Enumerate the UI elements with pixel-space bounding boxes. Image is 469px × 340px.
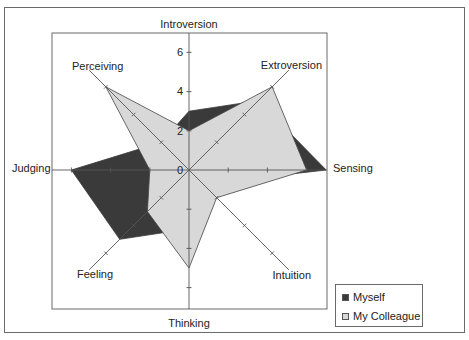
- legend-label-colleague: My Colleague: [353, 310, 420, 322]
- tick-label-6: 6: [177, 46, 183, 58]
- axis-label-introversion: Introversion: [160, 18, 217, 30]
- axis-label-feeling: Feeling: [77, 268, 113, 280]
- legend: Myself My Colleague: [335, 284, 423, 327]
- legend-label-myself: Myself: [353, 291, 385, 303]
- axis-label-extroversion: Extroversion: [261, 59, 322, 71]
- axis-label-thinking: Thinking: [168, 317, 210, 329]
- tick-label-0: 0: [177, 164, 183, 176]
- axis-label-sensing: Sensing: [333, 162, 373, 174]
- legend-swatch-dark-icon: [342, 294, 349, 301]
- axis-label-judging: Judging: [12, 162, 51, 174]
- axis-label-perceiving: Perceiving: [72, 60, 123, 72]
- legend-swatch-light-icon: [342, 313, 349, 320]
- tick-label-2: 2: [177, 125, 183, 137]
- axis-label-intuition: Intuition: [272, 269, 311, 281]
- legend-item-colleague: My Colleague: [342, 310, 420, 322]
- tick-label-4: 4: [177, 85, 183, 97]
- legend-item-myself: Myself: [342, 291, 385, 303]
